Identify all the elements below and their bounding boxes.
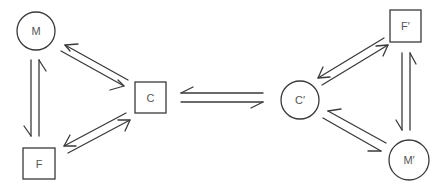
equilibrium-arrow-f-prime-m-prime — [396, 53, 416, 130]
equilibrium-arrow-m-c — [61, 44, 128, 90]
equilibrium-arrow-c-prime-f-prime — [318, 38, 388, 85]
node-label-m: M — [31, 25, 40, 37]
equilibrium-arrow-c-c-prime — [181, 87, 263, 108]
equilibrium-diagram: M F C C′ F′ M′ — [0, 0, 443, 193]
node-label-f-prime: F′ — [401, 20, 410, 32]
equilibrium-arrow-m-f — [24, 60, 46, 136]
equilibrium-arrow-c-prime-m-prime — [323, 109, 386, 151]
node-label-c: C — [147, 92, 155, 104]
node-m-prime: M′ — [389, 140, 429, 180]
node-c: C — [135, 82, 166, 113]
node-f-prime: F′ — [390, 10, 421, 42]
node-label-c-prime: C′ — [295, 94, 305, 106]
node-m: M — [17, 12, 55, 50]
node-f: F — [23, 148, 55, 179]
node-label-f: F — [36, 158, 43, 170]
equilibrium-arrow-f-c — [64, 113, 130, 153]
node-c-prime: C′ — [281, 81, 319, 119]
node-label-m-prime: M′ — [403, 154, 414, 166]
